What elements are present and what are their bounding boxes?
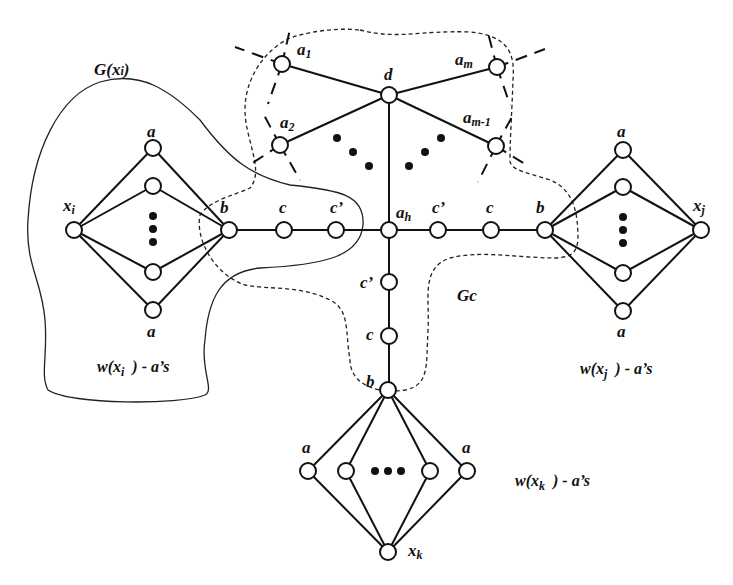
label-bottom-c: c	[366, 325, 374, 344]
label-ah: ah	[396, 203, 412, 224]
node-xj	[693, 222, 709, 238]
label-right-b: b	[536, 198, 545, 217]
ellipsis-dot	[371, 467, 379, 475]
node-k-right-a	[459, 463, 475, 479]
label-am1: am-1	[463, 108, 491, 129]
node-xk	[380, 544, 396, 560]
node-k-inner-left	[338, 463, 354, 479]
ellipsis-dot	[421, 148, 429, 156]
ellipsis-dot	[333, 134, 341, 142]
edge-d-am	[389, 67, 497, 95]
label-a2: a2	[280, 113, 295, 134]
label-bottom-cprime: c’	[360, 273, 374, 292]
label-j-top-a: a	[617, 122, 626, 141]
label-left-cprime: c’	[330, 198, 344, 217]
node-k-left-a	[300, 463, 316, 479]
node-k-inner-right	[422, 463, 438, 479]
node-left-cprime	[328, 222, 344, 238]
label-left-c: c	[279, 198, 287, 217]
label-right-cprime: c’	[432, 198, 446, 217]
node-i-bottom-a	[145, 302, 161, 318]
label-left-b: b	[220, 198, 229, 217]
node-am	[489, 59, 505, 75]
label-i-top-a: a	[147, 122, 156, 141]
label-xk: xk	[407, 541, 423, 562]
node-right-c	[483, 222, 499, 238]
caption-gadget-k: w(xk) - a’s	[515, 472, 590, 493]
label-xj: xj	[692, 196, 706, 217]
ellipsis-dot	[149, 212, 157, 220]
node-am1	[488, 138, 504, 154]
node-i-top-a	[145, 140, 161, 156]
node-left-c	[276, 222, 292, 238]
ellipsis-dot	[349, 148, 357, 156]
label-am: am	[455, 50, 473, 71]
node-a1	[274, 56, 290, 72]
node-right-b	[537, 222, 553, 238]
ellipsis-dot	[365, 162, 373, 170]
ellipsis-dot	[437, 134, 445, 142]
node-left-b	[221, 222, 237, 238]
node-i-inner-top	[145, 178, 161, 194]
label-bottom-b: b	[366, 372, 375, 391]
label-xi: xi	[62, 196, 76, 217]
node-bottom-c	[381, 328, 397, 344]
graph-diagram: G(xi) Gc a1 a2 am am-1 d ah b c c’ c’ c …	[0, 0, 733, 585]
node-j-top-a	[615, 142, 631, 158]
ellipsis-dot	[149, 238, 157, 246]
region-g-xi-boundary	[28, 78, 363, 402]
region-g-xi-label: G(xi)	[94, 60, 129, 79]
node-d	[381, 87, 397, 103]
ellipsis-dot	[384, 467, 392, 475]
label-i-bottom-a: a	[147, 322, 156, 341]
label-a1: a1	[297, 40, 312, 61]
label-j-bottom-a: a	[617, 322, 626, 341]
label-k-left-a: a	[302, 438, 311, 457]
ellipsis-dot	[619, 226, 627, 234]
node-right-cprime	[430, 222, 446, 238]
node-bottom-b	[380, 382, 396, 398]
node-i-inner-bottom	[145, 264, 161, 280]
ellipsis-dot	[619, 239, 627, 247]
node-j-bottom-a	[615, 303, 631, 319]
edge-d-a1	[282, 64, 389, 95]
caption-gadget-j: w(xj) - a’s	[580, 360, 652, 381]
node-j-inner-top	[615, 179, 631, 195]
node-xi	[66, 222, 82, 238]
node-a2	[272, 137, 288, 153]
ellipsis-dot	[149, 225, 157, 233]
label-right-c: c	[486, 198, 494, 217]
label-d: d	[384, 65, 393, 84]
node-j-inner-bottom	[615, 265, 631, 281]
caption-gadget-i: w(xi) - a’s	[97, 358, 169, 379]
label-k-right-a: a	[462, 438, 471, 457]
ellipsis-dot	[619, 213, 627, 221]
region-gc-label: Gc	[457, 286, 477, 305]
node-bottom-cprime	[381, 274, 397, 290]
ellipsis-dot	[405, 162, 413, 170]
ellipsis-dot	[397, 467, 405, 475]
node-ah	[381, 222, 397, 238]
